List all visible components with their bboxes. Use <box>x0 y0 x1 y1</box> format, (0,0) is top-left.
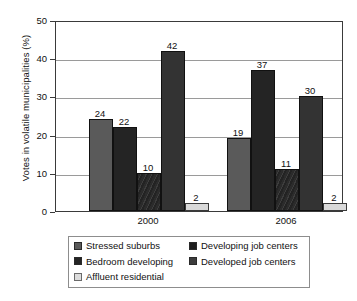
y-axis-tick-mark <box>50 212 55 213</box>
bar-value-label: 2 <box>316 192 352 203</box>
legend-item[interactable]: Developing job centers <box>189 240 304 251</box>
legend-swatch-icon <box>74 242 82 250</box>
y-axis-tick-label: 0 <box>21 206 47 217</box>
bar-value-label: 37 <box>244 59 280 70</box>
legend-label: Developing job centers <box>201 240 298 251</box>
bar-value-label: 19 <box>220 127 256 138</box>
legend-swatch-icon <box>74 257 82 265</box>
legend-item[interactable]: Affluent residential <box>74 271 189 282</box>
bar-value-label: 22 <box>106 116 142 127</box>
legend-item[interactable]: Developed job centers <box>189 256 304 267</box>
legend-label: Affluent residential <box>86 271 164 282</box>
chart-legend: Stressed suburbsDeveloping job centersBe… <box>68 236 310 288</box>
bar <box>323 203 347 211</box>
bar-value-label: 42 <box>154 40 190 51</box>
bar <box>251 70 275 211</box>
bar <box>227 138 251 211</box>
legend-swatch-icon <box>189 257 197 265</box>
legend-label: Bedroom developing <box>86 256 173 267</box>
bar-value-label: 11 <box>268 158 304 169</box>
legend-swatch-icon <box>189 242 197 250</box>
legend-label: Developed job centers <box>201 256 296 267</box>
bar <box>275 169 299 211</box>
bar <box>161 51 185 211</box>
bar <box>137 173 161 211</box>
y-axis-tick-label: 30 <box>21 91 47 102</box>
bar-value-label: 30 <box>292 85 328 96</box>
bar <box>89 119 113 211</box>
y-axis-tick-label: 50 <box>21 15 47 26</box>
legend-row: Affluent residential <box>74 271 304 287</box>
legend-row: Stressed suburbsDeveloping job centers <box>74 240 304 256</box>
bar <box>185 203 209 211</box>
y-axis-tick-label: 40 <box>21 53 47 64</box>
x-axis-category-label: 2000 <box>78 215 218 226</box>
y-axis-tick-label: 10 <box>21 168 47 179</box>
legend-item[interactable]: Bedroom developing <box>74 256 189 267</box>
bar-value-label: 10 <box>130 162 166 173</box>
bar-value-label: 2 <box>178 192 214 203</box>
legend-item[interactable]: Stressed suburbs <box>74 240 189 251</box>
bar-chart-figure: Votes in volatile municipalities (%) 010… <box>0 0 357 301</box>
gridline <box>56 60 342 61</box>
x-axis-category-label: 2006 <box>216 215 356 226</box>
y-axis-tick-label: 20 <box>21 130 47 141</box>
legend-swatch-icon <box>74 273 82 281</box>
legend-row: Bedroom developingDeveloped job centers <box>74 256 304 272</box>
legend-label: Stressed suburbs <box>86 240 160 251</box>
